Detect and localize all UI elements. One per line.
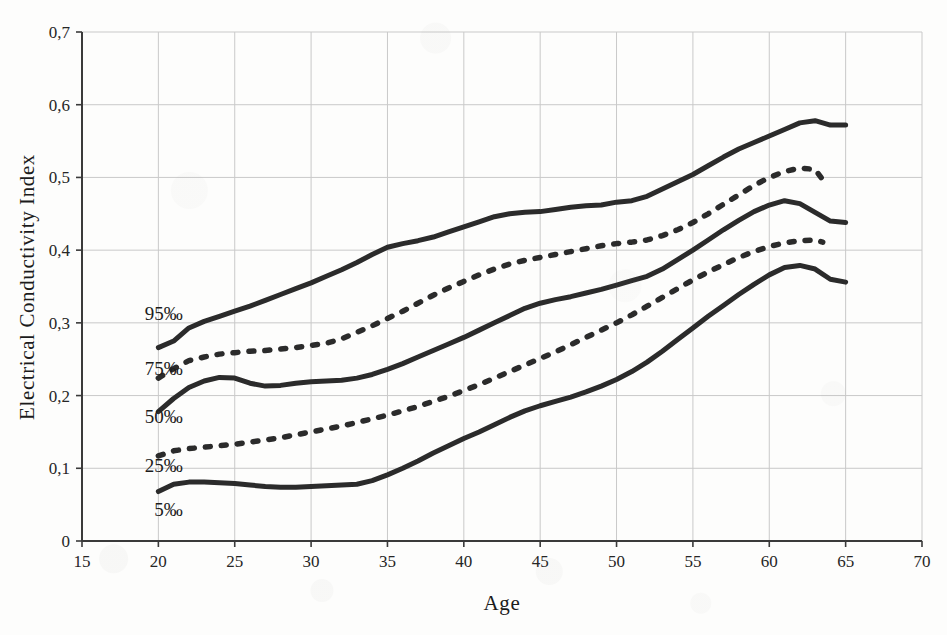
chart-figure: 152025303540455055606570 00,10,20,30,40,…	[0, 0, 947, 635]
y-axis-tick-label: 0	[62, 532, 71, 551]
x-axis-tick-label: 50	[608, 552, 625, 571]
x-axis-tick-label: 60	[761, 552, 778, 571]
x-axis-tick-label: 40	[455, 552, 472, 571]
y-axis-tick-label: 0,1	[49, 459, 70, 478]
y-axis-title: Electrical Conductivity Index	[15, 154, 39, 420]
x-axis-tick-label: 35	[379, 552, 396, 571]
x-axis-tick-label: 70	[914, 552, 931, 571]
x-axis-tick-label: 25	[226, 552, 243, 571]
chart-background	[0, 0, 947, 635]
x-axis-tick-label: 20	[150, 552, 167, 571]
x-axis-tick-label: 30	[303, 552, 320, 571]
y-axis-tick-label: 0,4	[49, 241, 71, 260]
series-label: 75‰	[145, 358, 183, 379]
x-axis-tick-label: 15	[74, 552, 91, 571]
x-axis-tick-label: 45	[532, 552, 549, 571]
y-axis-tick-label: 0,6	[49, 96, 70, 115]
series-label: 50‰	[145, 406, 183, 427]
y-axis-tick-label: 0,2	[49, 387, 70, 406]
series-label: 5‰	[154, 499, 183, 520]
x-axis-title: Age	[484, 591, 521, 615]
series-label: 25‰	[145, 455, 183, 476]
y-axis-tick-label: 0,5	[49, 168, 70, 187]
percentile-line-chart: 152025303540455055606570 00,10,20,30,40,…	[0, 0, 947, 635]
y-axis-tick-label: 0,7	[49, 23, 71, 42]
x-axis-tick-label: 55	[684, 552, 701, 571]
y-axis-tick-label: 0,3	[49, 314, 70, 333]
x-axis-tick-label: 65	[837, 552, 854, 571]
series-label: 95‰	[145, 303, 183, 324]
